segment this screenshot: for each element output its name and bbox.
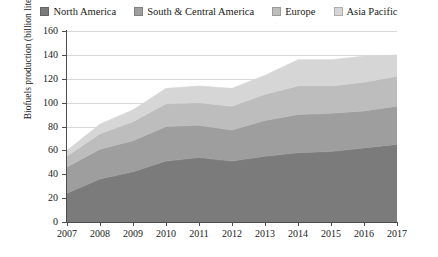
y-tick-label: 120	[28, 74, 58, 84]
y-tick-mark	[62, 31, 67, 32]
x-tick-mark	[331, 222, 332, 226]
x-tick-label: 2017	[377, 228, 417, 239]
y-tick-mark	[62, 150, 67, 151]
stacked-area-chart: North America South & Central America Eu…	[0, 0, 438, 257]
x-tick-mark	[133, 222, 134, 226]
y-tick-label: 0	[28, 217, 58, 227]
x-tick-mark	[265, 222, 266, 226]
y-tick-label: 20	[28, 193, 58, 203]
y-tick-mark	[62, 174, 67, 175]
x-tick-mark	[166, 222, 167, 226]
y-tick-label: 140	[28, 50, 58, 60]
y-tick-mark	[62, 55, 67, 56]
y-tick-label: 40	[28, 169, 58, 179]
x-tick-mark	[100, 222, 101, 226]
x-tick-mark	[298, 222, 299, 226]
y-tick-label: 160	[28, 26, 58, 36]
y-tick-mark	[62, 79, 67, 80]
x-tick-mark	[397, 222, 398, 226]
x-tick-mark	[232, 222, 233, 226]
y-tick-label: 80	[28, 122, 58, 132]
y-tick-mark	[62, 198, 67, 199]
y-tick-label: 100	[28, 98, 58, 108]
y-tick-label: 60	[28, 145, 58, 155]
x-tick-mark	[67, 222, 68, 226]
x-tick-mark	[364, 222, 365, 226]
x-tick-mark	[199, 222, 200, 226]
axis-ticks: 0204060801001201401602007200820092010201…	[0, 0, 438, 257]
y-tick-mark	[62, 103, 67, 104]
y-tick-mark	[62, 127, 67, 128]
